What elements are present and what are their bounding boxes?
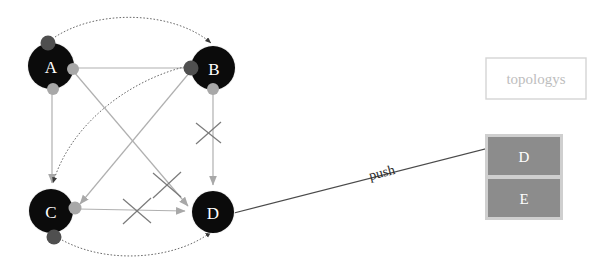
graph-node-d[interactable]: D bbox=[191, 190, 235, 234]
port-a-right-icon[interactable] bbox=[67, 63, 79, 75]
diagram-canvas: push A B C D bbox=[0, 0, 607, 272]
port-a-top-icon[interactable] bbox=[41, 36, 56, 51]
edge-c-d-dotted bbox=[62, 232, 211, 256]
port-b-bottom-icon[interactable] bbox=[207, 83, 219, 95]
edge-layer-solid bbox=[52, 68, 213, 211]
edge-b-c-dotted bbox=[53, 66, 188, 183]
topologys-box-label: topologys bbox=[506, 71, 565, 87]
node-c-label: C bbox=[45, 203, 56, 222]
port-c-bottom-icon[interactable] bbox=[47, 230, 62, 245]
edge-a-d bbox=[74, 72, 188, 206]
diagram-root: push A B C D bbox=[0, 0, 607, 272]
cross-mark-c-d bbox=[123, 198, 151, 224]
edge-a-b-dotted bbox=[55, 17, 211, 43]
port-c-right-icon[interactable] bbox=[69, 202, 82, 215]
node-a-label: A bbox=[45, 58, 58, 77]
stack-panel[interactable]: D E bbox=[485, 134, 563, 220]
stack-cell-e-label: E bbox=[519, 191, 528, 207]
push-edge-group: push bbox=[234, 139, 524, 213]
node-b-label: B bbox=[208, 60, 219, 79]
stack-cell-d-label: D bbox=[519, 149, 530, 165]
edge-c-d bbox=[78, 209, 185, 211]
node-d-label: D bbox=[207, 204, 219, 223]
topologys-box[interactable]: topologys bbox=[486, 58, 586, 99]
port-a-bottom-icon[interactable] bbox=[47, 83, 59, 95]
push-label: push bbox=[367, 162, 396, 183]
port-b-left-icon[interactable] bbox=[184, 61, 199, 76]
cross-mark-b-d bbox=[196, 122, 221, 144]
graph-node-c[interactable]: C bbox=[28, 188, 74, 234]
node-layer: A B C D bbox=[27, 42, 236, 234]
edge-layer-dotted bbox=[53, 17, 211, 256]
cross-mark-a-d bbox=[153, 172, 181, 198]
edge-b-c bbox=[80, 72, 190, 204]
